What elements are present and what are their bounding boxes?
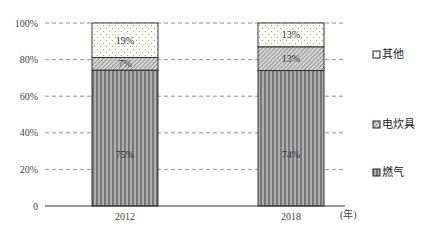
bar-segment-燃气: [92, 70, 158, 206]
y-axis-ticks: 020%40%60%80%100%: [15, 18, 38, 212]
legend-label: 电炊具: [382, 118, 415, 130]
legend-label: 其他: [382, 48, 404, 60]
segment-value-label: 7%: [118, 58, 131, 69]
segment-value-label: 13%: [282, 53, 300, 64]
y-tick-label: 0: [33, 201, 38, 212]
bar-2018: 74%13%13%: [258, 23, 324, 206]
bars: 75%7%19%74%13%13%: [92, 23, 324, 206]
x-axis-unit-label: (年): [340, 208, 357, 221]
legend-swatch-icon: [373, 169, 380, 176]
y-tick-label: 100%: [15, 18, 38, 29]
segment-value-label: 13%: [282, 29, 300, 40]
y-tick-label: 40%: [20, 127, 38, 138]
y-tick-label: 60%: [20, 91, 38, 102]
legend-item: 燃气: [373, 165, 404, 178]
segment-value-label: 75%: [116, 149, 134, 160]
y-tick-label: 20%: [20, 164, 38, 175]
x-tick-label: 2012: [115, 211, 135, 222]
segment-value-label: 19%: [116, 35, 134, 46]
stacked-bar-chart: 020%40%60%80%100% 75%7%19%74%13%13% 2012…: [0, 0, 435, 237]
x-axis-ticks: 20122018: [115, 211, 301, 222]
segment-value-label: 74%: [282, 149, 300, 160]
legend-swatch-icon: [373, 121, 380, 128]
bar-segment-燃气: [258, 71, 324, 206]
legend-item: 其他: [373, 48, 404, 60]
legend-swatch-icon: [373, 51, 380, 58]
legend-label: 燃气: [382, 165, 404, 178]
bar-2012: 75%7%19%: [92, 23, 158, 206]
legend-item: 电炊具: [373, 118, 415, 130]
legend: 其他电炊具燃气: [373, 48, 415, 178]
x-tick-label: 2018: [281, 211, 301, 222]
y-tick-label: 80%: [20, 54, 38, 65]
